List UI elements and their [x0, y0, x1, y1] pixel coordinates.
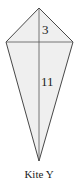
upper-segment-label: 3 — [42, 22, 49, 37]
diagram-title: Kite Y — [24, 168, 53, 180]
kite-shape — [6, 8, 73, 161]
kite-diagram: 3 11 Kite Y — [0, 0, 77, 184]
lower-segment-label: 11 — [41, 74, 54, 89]
